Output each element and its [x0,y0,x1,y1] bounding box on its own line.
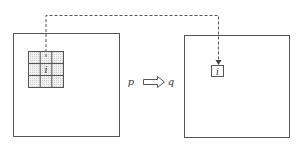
output-pixel-label: i [216,67,219,77]
dashed-connector-line [46,16,219,63]
diagram-canvas: i p q i [0,0,301,149]
mapping-to-label: q [168,76,174,87]
right-image-square [185,36,290,138]
grid-center-label: i [44,64,47,75]
arrowhead-icon [216,60,222,65]
mapping-from-label: p [128,76,135,87]
double-right-arrow-icon [144,77,165,88]
